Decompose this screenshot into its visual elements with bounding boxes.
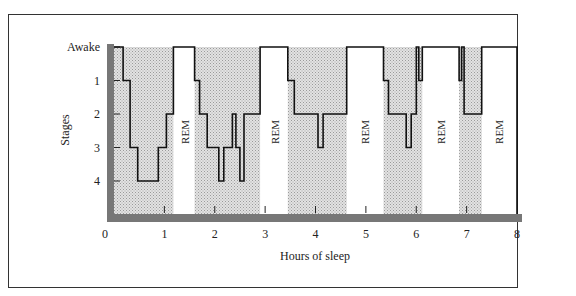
x-axis-bar — [107, 214, 522, 222]
y-axis-bar — [107, 44, 114, 222]
rem-label: REM — [359, 120, 371, 144]
x-tick-label: 7 — [464, 227, 470, 241]
x-tick-label: 1 — [161, 227, 167, 241]
y-tick-label: 2 — [94, 107, 100, 121]
x-tick-label: 0 — [102, 227, 108, 241]
rem-label: REM — [179, 120, 191, 144]
x-axis-title: Hours of sleep — [280, 249, 350, 263]
y-tick-label: 4 — [94, 174, 100, 188]
y-axis-title: Stages — [58, 114, 72, 146]
y-tick-label: 1 — [94, 74, 100, 88]
x-tick-label: 2 — [212, 227, 218, 241]
non-rem-shading — [459, 47, 482, 214]
x-tick-label: 6 — [413, 227, 419, 241]
rem-label: REM — [269, 120, 281, 144]
sleep-stage-chart: Awake1234012345678REMREMREMREMREMHours o… — [0, 0, 576, 296]
rem-label: REM — [435, 120, 447, 144]
non-rem-shading — [195, 47, 260, 214]
rem-label: REM — [493, 120, 505, 144]
y-tick-label: Awake — [67, 40, 100, 54]
x-tick-label: 4 — [313, 227, 319, 241]
y-tick-label: 3 — [94, 141, 100, 155]
x-tick-label: 5 — [363, 227, 369, 241]
x-tick-label: 8 — [514, 227, 520, 241]
x-tick-label: 3 — [262, 227, 268, 241]
